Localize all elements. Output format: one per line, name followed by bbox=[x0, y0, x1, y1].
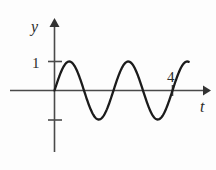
y-tick-label-one: 1 bbox=[32, 55, 40, 71]
y-axis-label: y bbox=[29, 18, 39, 36]
t-axis-label: t bbox=[200, 98, 205, 115]
graph-canvas: y t 1 4 bbox=[0, 0, 216, 170]
t-axis-arrow-icon bbox=[203, 86, 211, 96]
y-axis-arrow-icon bbox=[50, 18, 60, 27]
sine-wave-figure: y t 1 4 bbox=[0, 0, 216, 170]
t-tick-label-four: 4 bbox=[167, 69, 175, 85]
